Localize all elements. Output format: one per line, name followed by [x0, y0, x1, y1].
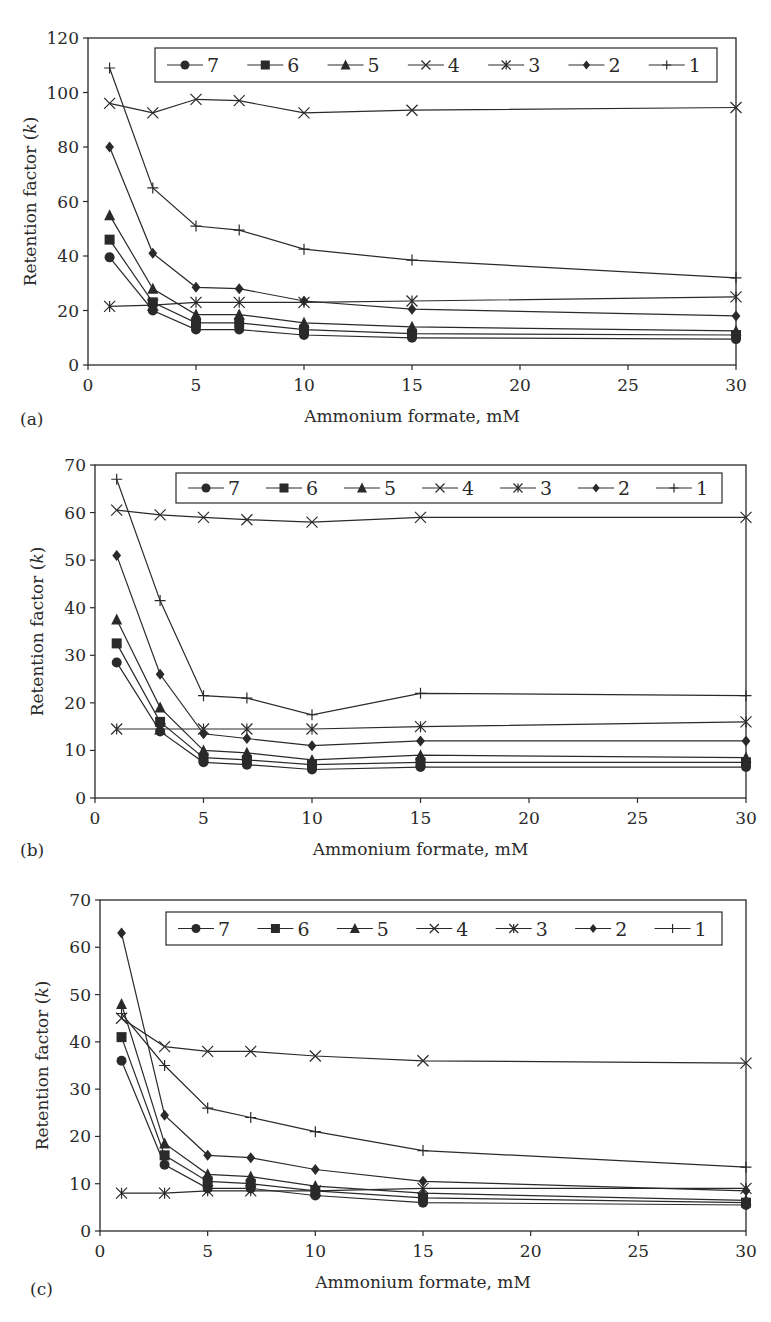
diamond-marker-icon [192, 282, 201, 293]
diamond-marker-icon [235, 283, 244, 294]
diamond-marker-icon [742, 1185, 751, 1196]
y-tick-label: 10 [64, 740, 86, 760]
chart-panel-a: 020406080100120051015202530Retention fac… [0, 0, 771, 440]
svg-text:4: 4 [456, 918, 468, 940]
y-tick-label: 0 [68, 355, 79, 375]
plus-marker-icon [307, 709, 318, 720]
legend: 7654321 [166, 912, 722, 945]
diamond-marker-icon [311, 1164, 320, 1175]
circle-marker-icon [202, 484, 211, 493]
svg-text:1: 1 [696, 477, 708, 499]
circle-marker-icon [105, 252, 115, 262]
plus-marker-icon [111, 474, 122, 485]
square-marker-icon [117, 1032, 127, 1042]
x-tick-label: 30 [735, 1241, 757, 1261]
x-tick-label: 15 [412, 1241, 434, 1261]
legend: 7654321 [176, 473, 722, 503]
svg-text:7: 7 [218, 918, 230, 940]
y-tick-label: 20 [69, 1126, 91, 1146]
x-marker-icon [147, 107, 158, 118]
diamond-marker-icon [148, 248, 157, 259]
panel-label: (c) [30, 1279, 53, 1299]
line-chart-c: 010203040506070051015202530Retention fac… [0, 865, 771, 1322]
y-tick-label: 20 [57, 301, 79, 321]
square-marker-icon [112, 638, 122, 648]
x-tick-label: 30 [725, 375, 747, 395]
chart-panel-c: 010203040506070051015202530Retention fac… [0, 865, 771, 1322]
svg-text:2: 2 [615, 918, 627, 940]
plus-marker-icon [299, 244, 310, 255]
x-axis-label: Ammonium formate, mM [303, 406, 520, 426]
diamond-marker-icon [243, 733, 252, 744]
line-chart-a: 020406080100120051015202530Retention fac… [0, 0, 771, 440]
plus-marker-icon [104, 62, 115, 73]
y-tick-label: 60 [64, 503, 86, 523]
x-tick-label: 5 [191, 375, 202, 395]
svg-text:6: 6 [306, 477, 318, 499]
diamond-marker-icon [203, 1150, 212, 1161]
series-4 [104, 94, 741, 119]
triangle-marker-icon [116, 998, 127, 1009]
y-tick-label: 40 [57, 246, 79, 266]
series-5 [111, 614, 751, 765]
plus-marker-icon [198, 690, 209, 701]
x-tick-label: 20 [520, 1241, 542, 1261]
circle-marker-icon [160, 1160, 170, 1170]
x-tick-label: 20 [518, 808, 540, 828]
y-tick-label: 0 [75, 788, 86, 808]
y-tick-label: 0 [80, 1221, 91, 1241]
plus-marker-icon [741, 690, 752, 701]
circle-marker-icon [112, 657, 122, 667]
plus-marker-icon [155, 595, 166, 606]
y-tick-label: 10 [69, 1174, 91, 1194]
svg-text:1: 1 [689, 54, 701, 76]
triangle-marker-icon [104, 209, 115, 220]
diamond-marker-icon [117, 928, 126, 939]
diamond-marker-icon [416, 735, 425, 746]
svg-text:3: 3 [536, 918, 548, 940]
square-marker-icon [280, 484, 289, 493]
y-tick-label: 20 [64, 693, 86, 713]
circle-marker-icon [181, 61, 190, 70]
plus-marker-icon [741, 1162, 752, 1173]
svg-text:3: 3 [528, 54, 540, 76]
x-tick-label: 5 [198, 808, 209, 828]
series-5 [116, 998, 751, 1205]
svg-text:1: 1 [695, 918, 707, 940]
x-tick-label: 0 [90, 808, 101, 828]
x-tick-label: 20 [509, 375, 531, 395]
plus-marker-icon [310, 1126, 321, 1137]
y-tick-label: 40 [69, 1032, 91, 1052]
svg-text:7: 7 [228, 477, 240, 499]
plus-marker-icon [731, 272, 742, 283]
series-1 [116, 1008, 751, 1173]
x-tick-label: 5 [202, 1241, 213, 1261]
panel-label: (a) [20, 409, 43, 429]
plus-marker-icon [415, 688, 426, 699]
svg-text:5: 5 [384, 477, 396, 499]
series-6 [112, 638, 751, 769]
diamond-marker-icon [732, 310, 741, 321]
triangle-marker-icon [202, 1168, 213, 1179]
series-4 [116, 1013, 751, 1069]
x-tick-label: 30 [735, 808, 757, 828]
plus-marker-icon [234, 225, 245, 236]
legend: 7654321 [155, 48, 717, 82]
triangle-marker-icon [155, 702, 166, 713]
square-marker-icon [160, 1150, 170, 1160]
y-tick-label: 50 [64, 550, 86, 570]
diamond-marker-icon [408, 304, 417, 315]
x-tick-label: 25 [628, 1241, 650, 1261]
square-marker-icon [105, 235, 115, 245]
triangle-marker-icon [147, 283, 158, 294]
svg-text:5: 5 [368, 54, 380, 76]
y-axis-label: Retention factor (k) [32, 981, 52, 1151]
x-axis-label: Ammonium formate, mM [314, 1272, 531, 1292]
svg-text:4: 4 [462, 477, 474, 499]
panel-label: (b) [20, 840, 44, 860]
x-marker-icon [104, 98, 115, 109]
diamond-marker-icon [742, 735, 751, 746]
plus-marker-icon [418, 1145, 429, 1156]
line-chart-b: 010203040506070051015202530Retention fac… [0, 440, 771, 865]
x-tick-label: 25 [627, 808, 649, 828]
